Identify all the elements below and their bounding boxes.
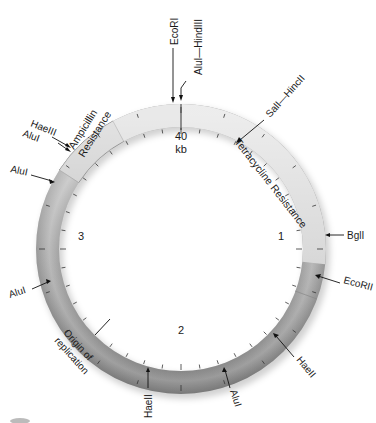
plasmid-map: 40 kb 1 2 3 Tetracycline Resistance Ampi… <box>0 0 376 423</box>
scale-label-2: 2 <box>178 324 184 336</box>
scale-label-40: 40 <box>175 130 187 142</box>
site-haeii-bottom[interactable]: HaeII <box>143 394 154 418</box>
site-haeii-right[interactable]: HaeII <box>294 354 318 379</box>
scale-label-1: 1 <box>278 230 284 242</box>
site-bgli[interactable]: BglI <box>347 230 364 241</box>
scale-label-3: 3 <box>78 230 84 242</box>
site-alui-hindiii[interactable]: AluI—HindIII <box>193 19 204 75</box>
site-ecorii[interactable]: EcoRII <box>342 274 374 292</box>
site-alui-bottom[interactable]: AluI <box>228 388 244 408</box>
corner-artifact <box>10 418 30 423</box>
site-sali-hincii[interactable]: SalI—HincII <box>263 73 307 120</box>
site-alui-left[interactable]: AluI <box>7 284 27 300</box>
site-ecori[interactable]: EcoRI <box>169 18 180 45</box>
site-alui-upper[interactable]: AluI <box>10 163 29 177</box>
scale-unit-kb: kb <box>175 143 187 155</box>
